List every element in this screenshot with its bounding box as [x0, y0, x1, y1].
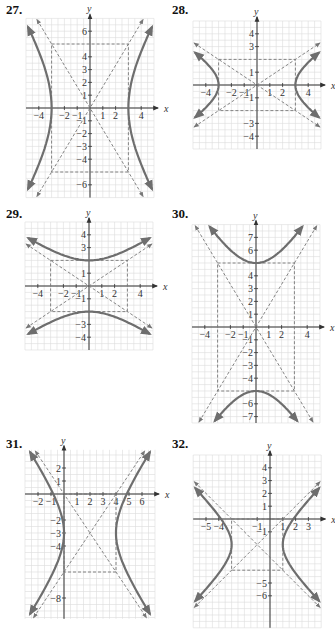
svg-text:4: 4 — [82, 51, 87, 62]
svg-text:y: y — [60, 435, 66, 446]
svg-text:y: y — [266, 440, 272, 451]
svg-text:2: 2 — [279, 329, 284, 340]
svg-text:2: 2 — [56, 463, 61, 474]
svg-text:1: 1 — [262, 501, 267, 512]
svg-text:−2: −2 — [58, 288, 69, 299]
svg-text:1: 1 — [266, 329, 271, 340]
svg-text:4: 4 — [305, 329, 310, 340]
svg-text:1: 1 — [75, 496, 80, 507]
svg-text:1: 1 — [99, 288, 104, 299]
svg-text:−2: −2 — [76, 128, 87, 139]
svg-text:1: 1 — [56, 476, 61, 487]
svg-text:2: 2 — [293, 521, 298, 532]
svg-text:−4: −4 — [199, 329, 210, 340]
svg-text:1: 1 — [267, 87, 272, 98]
svg-text:6: 6 — [82, 26, 87, 37]
svg-text:3: 3 — [101, 496, 106, 507]
svg-text:−1: −1 — [243, 92, 254, 103]
svg-text:−1: −1 — [75, 293, 86, 304]
graph-30: xy−4−2−1124764321−1−2−3−4−6−7 — [192, 210, 335, 423]
svg-text:−4: −4 — [243, 131, 254, 142]
svg-text:6: 6 — [140, 496, 145, 507]
svg-text:−4: −4 — [242, 373, 253, 384]
svg-text:y: y — [252, 210, 258, 221]
svg-text:3: 3 — [262, 475, 267, 486]
svg-text:−1: −1 — [242, 334, 253, 345]
svg-text:3: 3 — [81, 242, 86, 253]
svg-text:−2: −2 — [226, 87, 237, 98]
graph-27: xy−4−2−112464321−1−2−3−4−6 — [26, 3, 169, 197]
svg-text:2: 2 — [262, 488, 267, 499]
svg-text:−3: −3 — [76, 141, 87, 152]
svg-text:−6: −6 — [76, 179, 87, 190]
graph-29: xy−4−2−1124431−1−3−4 — [25, 207, 168, 350]
svg-text:2: 2 — [82, 77, 87, 88]
graph-28: xy−4−2−1124431−1−3−4 — [193, 6, 335, 149]
svg-text:3: 3 — [248, 283, 253, 294]
svg-text:−4: −4 — [33, 110, 44, 121]
svg-text:−2: −2 — [59, 110, 70, 121]
svg-text:1: 1 — [81, 268, 86, 279]
svg-text:−3: −3 — [243, 118, 254, 129]
svg-text:−4: −4 — [76, 154, 87, 165]
svg-text:−3: −3 — [242, 360, 253, 371]
svg-text:x: x — [163, 103, 169, 114]
svg-text:x: x — [330, 80, 335, 91]
svg-text:1: 1 — [249, 67, 254, 78]
svg-text:−4: −4 — [75, 332, 86, 343]
svg-text:3: 3 — [306, 521, 311, 532]
svg-text:4: 4 — [138, 288, 143, 299]
svg-text:−1: −1 — [76, 115, 87, 126]
svg-text:−3: −3 — [50, 528, 61, 539]
svg-text:x: x — [162, 281, 168, 292]
svg-text:y: y — [86, 3, 92, 14]
hyperbola-graphs: xy−4−2−112464321−1−2−3−4−6xy−4−2−1124431… — [0, 0, 335, 630]
svg-text:−2: −2 — [225, 329, 236, 340]
svg-text:5: 5 — [127, 496, 132, 507]
svg-text:−5: −5 — [256, 578, 267, 589]
svg-text:7: 7 — [248, 232, 253, 243]
svg-text:−6: −6 — [242, 398, 253, 409]
svg-text:4: 4 — [262, 462, 267, 473]
svg-text:4: 4 — [139, 110, 144, 121]
svg-text:−3: −3 — [75, 319, 86, 330]
svg-text:2: 2 — [248, 296, 253, 307]
svg-text:3: 3 — [82, 64, 87, 75]
svg-text:y: y — [85, 207, 91, 218]
svg-text:−8: −8 — [50, 593, 61, 604]
svg-text:−6: −6 — [256, 590, 267, 601]
svg-text:2: 2 — [113, 110, 118, 121]
svg-text:4: 4 — [248, 270, 253, 281]
svg-text:4: 4 — [249, 28, 254, 39]
svg-text:2: 2 — [112, 288, 117, 299]
svg-text:1: 1 — [100, 110, 105, 121]
svg-text:4: 4 — [306, 87, 311, 98]
graph-32: xy−5−4−11234321−1−5−6 — [193, 440, 335, 628]
svg-text:y: y — [253, 6, 259, 17]
svg-text:6: 6 — [248, 245, 253, 256]
graph-31: xy−2−112345621−2−3−4−8 — [25, 435, 170, 619]
svg-text:x: x — [164, 489, 170, 500]
svg-text:−2: −2 — [50, 515, 61, 526]
svg-text:2: 2 — [280, 87, 285, 98]
svg-text:x: x — [330, 514, 335, 525]
svg-text:−2: −2 — [33, 496, 44, 507]
svg-text:−2: −2 — [242, 347, 253, 358]
svg-text:2: 2 — [88, 496, 93, 507]
svg-text:3: 3 — [249, 41, 254, 52]
svg-text:−4: −4 — [32, 288, 43, 299]
svg-text:4: 4 — [81, 229, 86, 240]
svg-text:−7: −7 — [242, 411, 253, 422]
svg-text:−5: −5 — [201, 521, 212, 532]
svg-text:−4: −4 — [50, 541, 61, 552]
svg-text:−4: −4 — [200, 87, 211, 98]
svg-text:x: x — [329, 322, 335, 333]
svg-text:−1: −1 — [256, 526, 267, 537]
